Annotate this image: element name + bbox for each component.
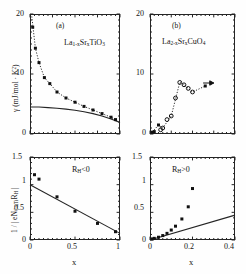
panel-c-xlabel: x (72, 258, 76, 267)
panel-a-plot (30, 14, 120, 134)
panel-c-ylabel: 1 / | eNCa,TiRH | (11, 187, 19, 233)
formula-a-sub1: 1-x (72, 41, 79, 47)
panel-d-xlabel: x (189, 258, 193, 267)
panel-d-xtick-04: 0.4 (224, 243, 234, 251)
invhall-sub-h: H (13, 191, 19, 195)
panel-a-ytick-0: 0 (22, 129, 26, 137)
formula-b-cuo: CuO (188, 37, 203, 46)
gamma-symbol: γ (11, 109, 20, 112)
panel-c-xtick-05: 0.5 (67, 243, 77, 251)
formula-b-sub3: 4 (203, 40, 206, 46)
panel-c-xtick-1: 1 (116, 243, 120, 251)
gamma-unit: (mJ/mol · K (11, 70, 20, 107)
panel-d-xtick-0: 0 (148, 243, 152, 251)
panel-a-material: La1-xSrxTiO3 (64, 39, 105, 48)
figure-root: (a) La1-xSrxTiO3 20 10 0 γ (mJ/mol · K2)… (0, 0, 246, 274)
panel-b-material: La2-xSrxCuO4 (162, 38, 205, 47)
panel-c-ytick-1: 1 (22, 177, 26, 185)
panel-c-ytick-0: 0 (22, 236, 26, 244)
panel-d-ytick-05: 0.5 (134, 204, 144, 212)
gamma-unit-exp: 2 (11, 67, 17, 70)
formula-b-sub1: 2-x (170, 40, 177, 46)
panel-d-ytick-0: 0 (142, 236, 146, 244)
panel-b-ytick-20: 20 (136, 10, 144, 18)
panel-a-ytick-20: 20 (16, 10, 24, 18)
panel-b-ytick-0: 0 (142, 129, 146, 137)
panel-a-ylabel: γ (mJ/mol · K2) (12, 65, 20, 113)
panel-d-ytick-15: 1.5 (132, 153, 142, 161)
panel-d-ytick-1: 1 (142, 177, 146, 185)
invhall-post: | (10, 187, 19, 190)
invhall-sub-cati: Ca,Ti (13, 200, 19, 211)
formula-a-tio: TiO (90, 38, 103, 47)
formula-a-sr: Sr (80, 38, 87, 47)
panel-d-xtick-02: 0.2 (184, 243, 194, 251)
rh-neg-op: <0 (81, 165, 90, 174)
rh-pos-op: >0 (181, 165, 190, 174)
panel-b: (b) La2-xSrxCuO4 (150, 14, 235, 134)
invhall-pre: 1 / | eN (10, 211, 19, 233)
panel-c-ytick-15: 1.5 (12, 153, 22, 161)
panel-a: (a) La1-xSrxTiO3 (30, 14, 120, 134)
panel-b-plot (150, 14, 235, 134)
panel-b-ytick-10: 10 (136, 69, 144, 77)
gamma-unit-close: ) (11, 65, 20, 68)
panel-d-plot (150, 157, 235, 240)
panel-c-annotation: RH<0 (72, 166, 90, 175)
formula-a-sub3: 3 (102, 41, 105, 47)
panel-c: RH<0 (30, 157, 120, 240)
panel-b-label: (b) (172, 22, 181, 30)
panel-d: RH>0 (150, 157, 235, 240)
formula-b-sr: Sr (178, 37, 185, 46)
panel-c-xtick-0: 0 (28, 243, 32, 251)
panel-a-label: (a) (56, 22, 64, 30)
invhall-r: R (10, 195, 19, 200)
panel-d-annotation: RH>0 (172, 166, 190, 175)
